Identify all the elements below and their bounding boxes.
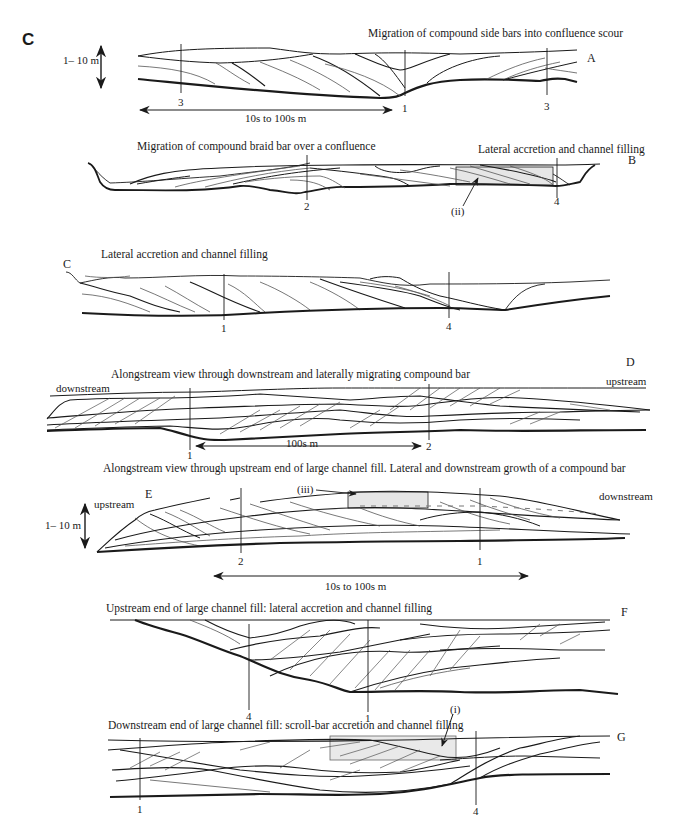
reference-line-label: 4 (473, 806, 479, 817)
section-title: Upstream end of large channel fill: late… (106, 603, 432, 615)
callout-label: (i) (450, 704, 460, 715)
direction-label-downstream: downstream (56, 383, 110, 394)
callout-label: (ii) (451, 206, 464, 217)
reference-line-label: 2 (238, 556, 244, 567)
section-d (47, 384, 650, 450)
section-f (110, 620, 618, 712)
section-id: G (617, 731, 626, 743)
section-id: B (628, 154, 636, 166)
horizontal-scale-label: 10s to 100s m (325, 581, 386, 592)
reference-line-label: 1 (221, 323, 227, 334)
reference-line-label: 2 (304, 201, 310, 212)
reference-line-label: 1 (402, 103, 408, 114)
direction-label-downstream: downstream (599, 491, 653, 502)
direction-label-upstream: upstream (606, 376, 646, 387)
section-id: E (145, 488, 152, 500)
reference-line-label: 2 (426, 441, 432, 452)
section-title: Migration of compound braid bar over a c… (137, 141, 376, 153)
section-id: C (63, 258, 71, 270)
stratigraphic-cross-sections (0, 0, 679, 834)
section-subtitle: Lateral accretion and channel filling (478, 144, 645, 156)
reference-line-label: 1 (477, 556, 483, 567)
section-title: Downstream end of large channel fill: sc… (108, 720, 464, 732)
callout-label: (iii) (297, 484, 314, 495)
reference-line-label: 4 (554, 196, 560, 207)
section-id: D (626, 356, 635, 368)
section-a (101, 44, 577, 110)
reference-line-label: 3 (544, 101, 550, 112)
direction-label-upstream: upstream (94, 499, 134, 510)
section-title: Alongstream view through downstream and … (111, 369, 470, 381)
reference-line-label: 3 (178, 97, 184, 108)
horizontal-scale-label: 100s m (286, 438, 318, 449)
section-e (85, 488, 630, 576)
section-id: F (621, 606, 628, 618)
section-b (88, 155, 600, 206)
vertical-scale-label: 1– 10 m (45, 520, 81, 531)
reference-line-label: 1 (137, 804, 143, 815)
section-c (66, 272, 610, 320)
reference-line-label: 4 (446, 321, 452, 332)
horizontal-scale-label: 10s to 100s m (245, 113, 306, 124)
vertical-scale-label: 1– 10 m (63, 55, 99, 66)
reference-line-label: 1 (187, 450, 193, 461)
section-title: Migration of compound side bars into con… (368, 28, 623, 40)
section-id: A (587, 52, 596, 64)
section-title: Alongstream view through upstream end of… (103, 463, 626, 475)
section-title: Lateral accretion and channel filling (101, 249, 268, 261)
